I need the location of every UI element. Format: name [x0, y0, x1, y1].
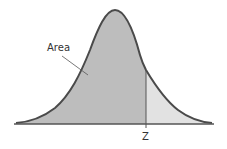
- normal-curve-diagram: Area Z: [0, 0, 227, 149]
- z-label: Z: [142, 131, 149, 142]
- shaded-area: [16, 10, 146, 124]
- area-label: Area: [47, 42, 70, 53]
- tail-area: [146, 70, 212, 124]
